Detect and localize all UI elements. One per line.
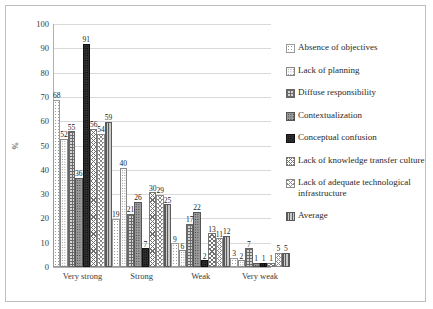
bar[interactable]: 3 xyxy=(230,258,237,267)
chart-frame: 1009080706050403020100 % 685255369156545… xyxy=(5,5,426,302)
legend-item-label: Contextualization xyxy=(298,110,362,121)
bar-value-label: 22 xyxy=(193,204,201,212)
bar[interactable]: 91 xyxy=(83,44,90,267)
x-axis-tick-label: Very weak xyxy=(230,271,289,281)
legend-item[interactable]: Average xyxy=(286,210,433,221)
bar[interactable]: 7 xyxy=(142,248,149,267)
bar-value-label: 29 xyxy=(156,187,164,195)
chart-legend: Absence of objectivesLack of planningDif… xyxy=(286,42,433,232)
bar-value-label: 21 xyxy=(127,206,135,214)
bar-value-label: 91 xyxy=(83,36,91,44)
bar[interactable]: 7 xyxy=(245,248,252,267)
legend-item[interactable]: Absence of objectives xyxy=(286,42,433,53)
legend-swatch-icon xyxy=(286,112,295,121)
bar-group: 32711155Very weak xyxy=(230,24,289,267)
y-axis-tick-label: 30 xyxy=(41,189,50,199)
bar-value-label: 68 xyxy=(53,92,61,100)
legend-item[interactable]: Contextualization xyxy=(286,110,433,121)
y-axis-tick-label: 50 xyxy=(41,141,50,151)
bar-value-label: 12 xyxy=(223,228,231,236)
bar[interactable]: 17 xyxy=(186,224,193,267)
bar-group: 6852553691565459Very strong xyxy=(53,24,112,267)
y-axis-label: % xyxy=(10,142,20,149)
bar-value-label: 26 xyxy=(134,194,142,202)
bar[interactable]: 56 xyxy=(90,129,97,267)
legend-item-label: Conceptual confusion xyxy=(298,132,377,143)
y-axis-tick-label: 100 xyxy=(36,19,49,29)
y-axis-tick-label: 60 xyxy=(41,116,50,126)
bar-value-label: 1 xyxy=(269,255,273,263)
bar-group: 194021267302925Strong xyxy=(112,24,171,267)
bar[interactable]: 54 xyxy=(97,134,104,267)
bar[interactable]: 29 xyxy=(156,195,163,267)
bar[interactable]: 26 xyxy=(134,202,141,267)
bar[interactable]: 1 xyxy=(260,263,267,267)
y-axis-tick-label: 70 xyxy=(41,92,50,102)
bar[interactable]: 1 xyxy=(267,263,274,267)
bar-value-label: 30 xyxy=(149,185,157,193)
bar-value-label: 6 xyxy=(180,243,184,251)
bar[interactable]: 19 xyxy=(112,219,119,267)
bar-value-label: 7 xyxy=(144,241,148,249)
bar[interactable]: 68 xyxy=(53,100,60,267)
legend-item-label: Average xyxy=(298,210,328,221)
bar-value-label: 25 xyxy=(164,197,172,205)
y-axis-tick-label: 90 xyxy=(41,43,50,53)
y-axis-tick-label: 80 xyxy=(41,68,50,78)
legend-swatch-icon xyxy=(286,67,295,76)
legend-item[interactable]: Lack of adequate technological infrastru… xyxy=(286,177,433,198)
bar[interactable]: 36 xyxy=(75,178,82,267)
bar-value-label: 1 xyxy=(262,255,266,263)
bar-value-label: 5 xyxy=(284,245,288,253)
bar[interactable]: 5 xyxy=(275,253,282,267)
legend-item[interactable]: Diffuse responsibility xyxy=(286,87,433,98)
bar[interactable]: 6 xyxy=(179,250,186,267)
bar-value-label: 59 xyxy=(105,114,113,122)
gridline xyxy=(53,267,271,268)
legend-swatch-icon xyxy=(286,89,295,98)
legend-item[interactable]: Lack of knowledge transfer culture xyxy=(286,155,433,166)
x-axis-tick-label: Very strong xyxy=(53,271,112,281)
legend-item-label: Lack of planning xyxy=(298,65,359,76)
bar[interactable]: 5 xyxy=(282,253,289,267)
legend-item-label: Lack of knowledge transfer culture xyxy=(298,155,424,166)
bar-value-label: 9 xyxy=(173,236,177,244)
bar-value-label: 52 xyxy=(60,131,68,139)
legend-item[interactable]: Lack of planning xyxy=(286,65,433,76)
bar[interactable]: 55 xyxy=(68,131,75,267)
bar-value-label: 3 xyxy=(232,250,236,258)
y-axis-tick-label: 20 xyxy=(41,213,50,223)
bar[interactable]: 9 xyxy=(171,243,178,267)
bar[interactable]: 22 xyxy=(193,212,200,267)
bar-value-label: 17 xyxy=(186,216,194,224)
bar[interactable]: 52 xyxy=(60,139,67,267)
bar-value-label: 55 xyxy=(68,124,76,132)
y-axis-tick-label: 40 xyxy=(41,165,50,175)
legend-item[interactable]: Conceptual confusion xyxy=(286,132,433,143)
bar[interactable]: 1 xyxy=(253,263,260,267)
bar[interactable]: 13 xyxy=(208,233,215,267)
bar[interactable]: 12 xyxy=(223,236,230,267)
y-axis-tick-label: 0 xyxy=(45,262,49,272)
bar-value-label: 54 xyxy=(97,126,105,134)
legend-item-label: Absence of objectives xyxy=(298,42,377,53)
bar[interactable]: 2 xyxy=(201,260,208,267)
legend-item-label: Lack of adequate technological infrastru… xyxy=(298,177,433,198)
bar[interactable]: 59 xyxy=(105,122,112,267)
bar[interactable]: 2 xyxy=(238,260,245,267)
bar-value-label: 56 xyxy=(90,121,98,129)
bar[interactable]: 25 xyxy=(164,204,171,267)
bar[interactable]: 40 xyxy=(120,168,127,267)
bar-value-label: 36 xyxy=(75,170,83,178)
bar-value-label: 2 xyxy=(203,253,207,261)
legend-swatch-icon xyxy=(286,212,295,221)
legend-swatch-icon xyxy=(286,134,295,143)
bar[interactable]: 11 xyxy=(216,238,223,267)
bar-value-label: 2 xyxy=(240,253,244,261)
bar-groups: 6852553691565459Very strong1940212673029… xyxy=(53,24,271,267)
bar[interactable]: 21 xyxy=(127,214,134,267)
x-axis-tick-label: Weak xyxy=(171,271,230,281)
bar-value-label: 7 xyxy=(247,241,251,249)
x-axis-tick-label: Strong xyxy=(112,271,171,281)
bar[interactable]: 30 xyxy=(149,192,156,267)
